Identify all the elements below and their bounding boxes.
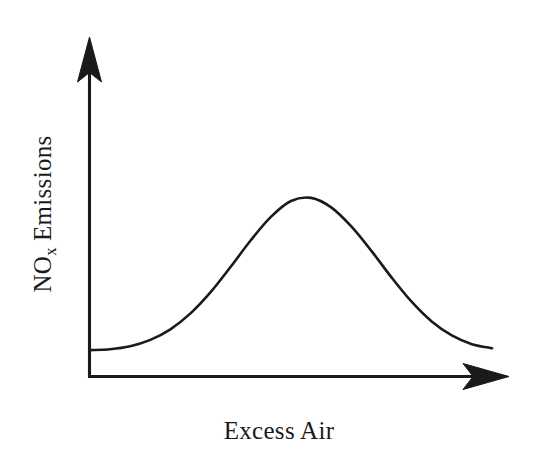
y-axis-label-container: NOx Emissions (0, 0, 90, 455)
x-axis-label: Excess Air (224, 418, 335, 443)
y-axis-label-subscript: x (41, 248, 60, 256)
nox-emissions-vs-excess-air-figure: NOx Emissions Excess Air (0, 0, 533, 455)
nox-emissions-curve (90, 197, 492, 350)
y-axis-label-main: NO (29, 256, 56, 293)
y-axis-label: NOx Emissions (30, 135, 59, 292)
y-axis-label-tail: Emissions (29, 135, 56, 247)
